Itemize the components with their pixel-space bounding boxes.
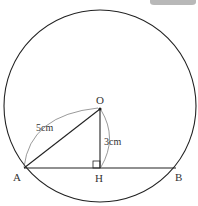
right-angle-mark: [93, 161, 100, 168]
label-A: A: [13, 171, 21, 183]
segment-OA: [24, 109, 100, 168]
length-OA: 5cm: [36, 122, 53, 133]
label-O: O: [96, 94, 104, 106]
label-B: B: [175, 171, 182, 183]
label-H: H: [95, 172, 103, 184]
corner-tab: [150, 0, 196, 5]
circle-chord-diagram: O A H B 5cm 3cm: [0, 0, 198, 206]
length-OH: 3cm: [104, 136, 121, 147]
brace-OA: [24, 108, 98, 167]
